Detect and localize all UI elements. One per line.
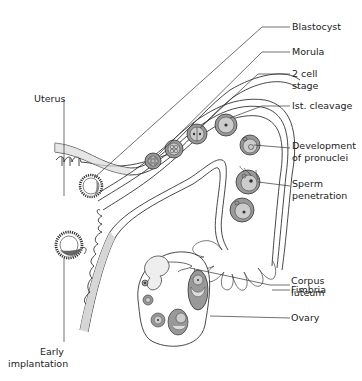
label-pronuclei-line2: of pronuclei: [292, 152, 348, 163]
inner-wall-shading: [80, 232, 115, 332]
two-cell-stage: [187, 124, 207, 144]
blastocyst-in-uterus: [80, 175, 102, 197]
label-sperm-line2: penetration: [292, 190, 347, 201]
first-cleavage-zygote: [215, 114, 237, 136]
label-morula: Morula: [292, 46, 324, 57]
label-corpus-line1: Corpus: [291, 275, 324, 286]
uterus-wall-shading: [55, 143, 130, 175]
label-sperm-line1: Sperm: [292, 178, 323, 189]
label-2-cell-line2: stage: [292, 80, 319, 91]
ovulated-egg: [230, 198, 254, 222]
label-2-cell-line1: 2 cell: [292, 68, 317, 79]
label-implant-line1: Early: [40, 346, 64, 357]
label-corpus-line2: luteum: [291, 287, 325, 298]
graafian-follicle: [188, 270, 208, 310]
early-implantation-embryo: [56, 232, 86, 258]
label-pronuclei-line1: Development: [292, 140, 356, 151]
label-implant-line2: implantation: [8, 358, 68, 369]
label-uterus: Uterus: [34, 93, 65, 104]
embryo-development-diagram: Blastocyst Morula 2 cell stage Ist. clea…: [0, 0, 362, 381]
label-ovary: Ovary: [291, 312, 320, 323]
label-first-cleavage: Ist. cleavage: [292, 100, 353, 111]
ovary: [138, 252, 210, 346]
label-blastocyst: Blastocyst: [292, 21, 341, 32]
four-cell-stage: [165, 140, 183, 158]
morula: [145, 153, 161, 169]
sperm-penetration-egg: [236, 166, 260, 194]
